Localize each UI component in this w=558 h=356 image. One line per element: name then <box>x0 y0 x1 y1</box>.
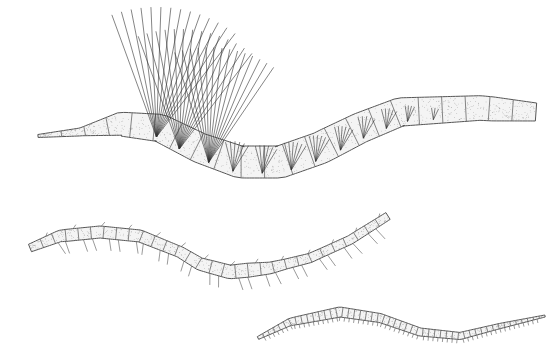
upper-worm <box>38 7 537 178</box>
worm-illustration <box>0 0 558 356</box>
middle-worm <box>29 213 391 290</box>
lower-worm <box>257 307 545 343</box>
